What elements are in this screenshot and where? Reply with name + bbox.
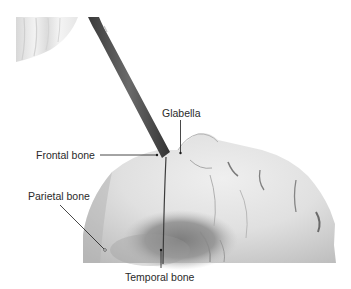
probe bbox=[88, 17, 170, 158]
label-parietal-bone: Parietal bone bbox=[28, 191, 90, 202]
anatomy-figure: Glabella Frontal bone Parietal bone Temp… bbox=[0, 0, 351, 289]
label-frontal-bone: Frontal bone bbox=[36, 150, 95, 161]
label-glabella: Glabella bbox=[162, 108, 201, 119]
head-photo bbox=[83, 133, 336, 270]
anatomy-photo bbox=[0, 0, 351, 289]
label-temporal-bone: Temporal bone bbox=[125, 272, 194, 283]
glove-finger bbox=[16, 17, 78, 62]
